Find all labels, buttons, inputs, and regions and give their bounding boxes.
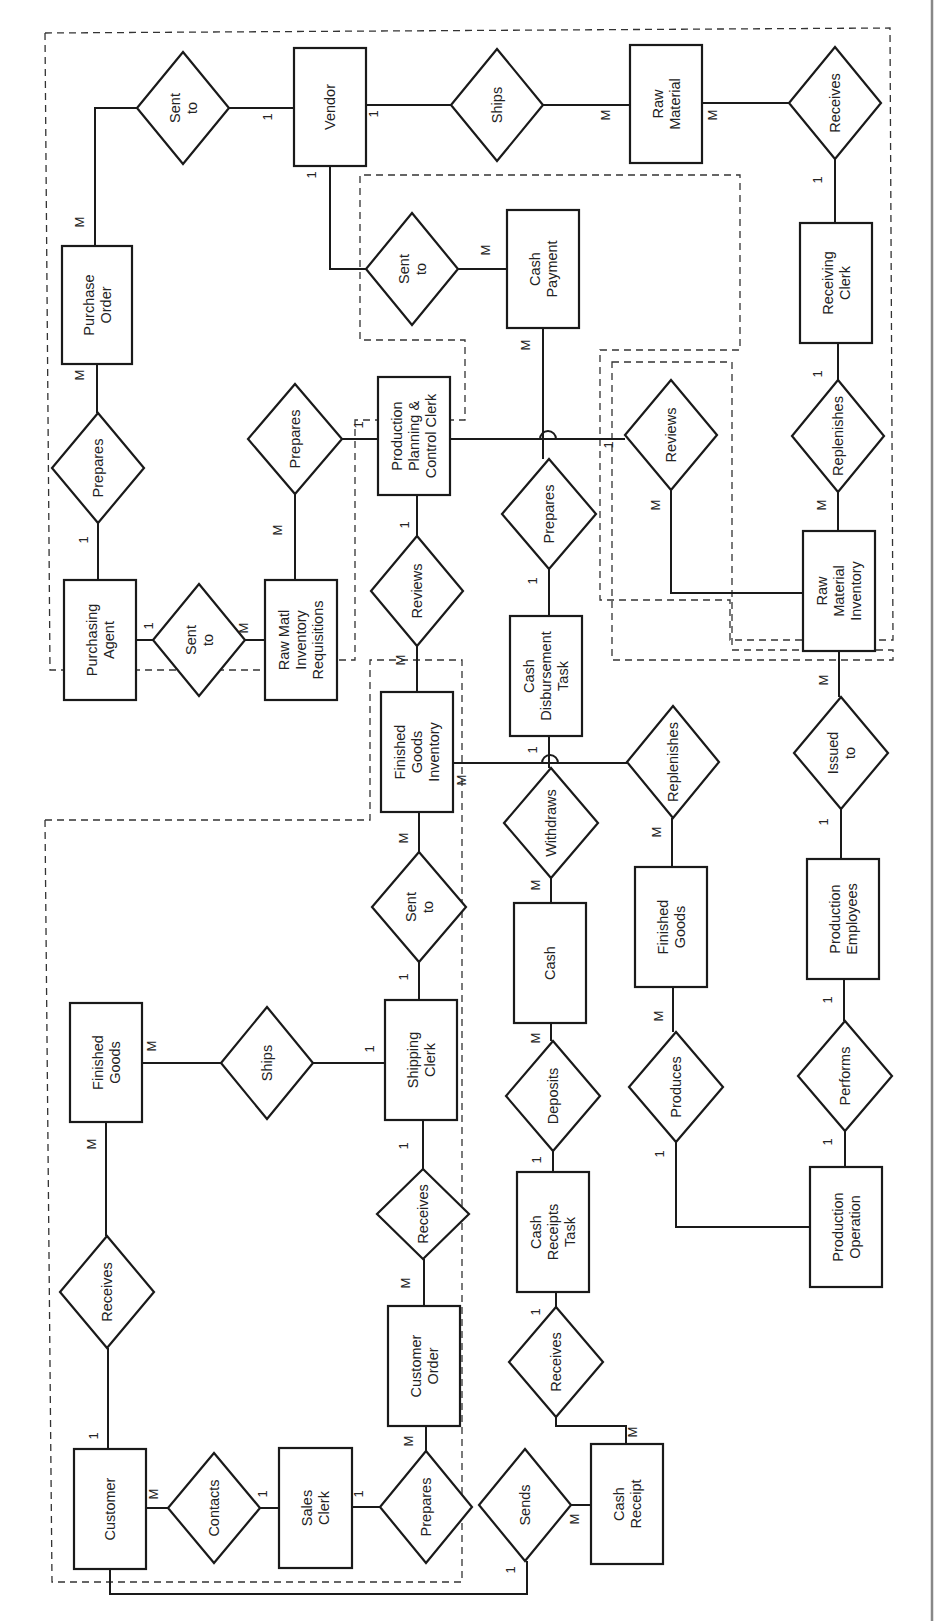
relationship-receives-fg: Receives — [60, 1236, 154, 1348]
cardinality-label: M — [648, 500, 663, 511]
entity-purchasing-agent: PurchasingAgent — [64, 580, 136, 700]
relationship-receives-raw: Receives — [789, 47, 881, 159]
cardinality-label: 1 — [366, 110, 381, 117]
relationship-replenishes-rmi: Replenishes — [792, 380, 884, 492]
entity-cash-payment: CashPayment — [507, 210, 579, 328]
relationship-sends: Sends — [479, 1449, 571, 1561]
cardinality-label: M — [401, 1436, 416, 1447]
cardinality-label: 1 — [76, 536, 91, 543]
cardinality-label: 1 — [820, 996, 835, 1003]
svg-text:ProductionOperation: ProductionOperation — [830, 1192, 863, 1261]
process-boundaries — [45, 28, 893, 1582]
svg-text:Receives: Receives — [415, 1184, 431, 1244]
svg-text:Prepares: Prepares — [90, 439, 106, 498]
cardinality-label: M — [454, 775, 469, 786]
cardinality-label: 1 — [503, 1566, 518, 1573]
relationship-prepares-cdt: Prepares — [502, 459, 596, 569]
relationship-sent-to-vendor: Sentto — [137, 52, 229, 164]
svg-text:Reviews: Reviews — [409, 564, 425, 619]
svg-text:ProductionPlanning &Control Cl: ProductionPlanning &Control Clerk — [389, 393, 439, 478]
cardinality-label: M — [528, 1033, 543, 1044]
cardinality-label: M — [146, 1489, 161, 1500]
cardinality-label: 1 — [362, 1045, 377, 1052]
svg-text:FinishedGoods: FinishedGoods — [90, 1035, 123, 1090]
cardinality-label: M — [528, 880, 543, 891]
cardinality-label: 1 — [529, 1156, 544, 1163]
cardinality-label: M — [651, 1011, 666, 1022]
entity-cash-receipts-task: CashReceiptsTask — [517, 1172, 589, 1292]
cardinality-label: M — [84, 1139, 99, 1150]
entity-raw-matl-inventory-requisitions: Raw MatlInventoryRequisitions — [265, 580, 337, 700]
entity-customer-order: CustomerOrder — [388, 1306, 460, 1426]
cardinality-label: 1 — [351, 421, 366, 428]
entity-vendor: Vendor — [294, 48, 366, 166]
cardinality-label: M — [398, 1278, 413, 1289]
svg-text:SalesClerk: SalesClerk — [299, 1490, 332, 1526]
cardinality-label: 1 — [601, 441, 616, 448]
svg-text:Receives: Receives — [548, 1332, 564, 1392]
cardinality-label: 1 — [260, 113, 275, 120]
entity-customer: Customer — [74, 1449, 146, 1569]
svg-text:Receives: Receives — [99, 1262, 115, 1322]
relationship-performs: Performs — [798, 1021, 892, 1131]
svg-text:Ships: Ships — [259, 1045, 275, 1081]
relationship-ships-fg: Ships — [221, 1007, 313, 1119]
svg-text:Sends: Sends — [517, 1484, 533, 1525]
relationship-reviews-ppc-cp: Reviews — [625, 380, 717, 490]
relationship-sent-to-shipping: Sentto — [372, 852, 466, 962]
entity-raw-material-inventory: RawMaterialInventory — [803, 531, 875, 651]
cardinality-label: M — [72, 370, 87, 381]
connector-line — [556, 1417, 626, 1444]
cardinality-label: 1 — [396, 973, 411, 980]
cardinality-label: 1 — [255, 1490, 270, 1497]
er-diagram: PurchaseOrderVendorRawMaterialCashPaymen… — [0, 0, 945, 1621]
entity-cash-receipt: CashReceipt — [591, 1444, 663, 1564]
svg-text:Reviews: Reviews — [663, 408, 679, 463]
cardinality-label: 1 — [86, 1432, 101, 1439]
cardinality-label: 1 — [304, 171, 319, 178]
connector-line — [671, 490, 803, 593]
svg-text:Ships: Ships — [489, 87, 505, 123]
cardinality-label: M — [816, 675, 831, 686]
entity-shipping-clerk: ShippingClerk — [385, 1000, 457, 1120]
cardinality-label: M — [598, 110, 613, 121]
svg-text:FinishedGoods: FinishedGoods — [655, 900, 688, 955]
svg-text:Receives: Receives — [827, 73, 843, 133]
cardinality-label: 1 — [816, 818, 831, 825]
svg-text:Contacts: Contacts — [206, 1479, 222, 1536]
cardinality-label: 1 — [810, 370, 825, 377]
cardinality-label: M — [72, 217, 87, 228]
relationship-prepares-co: Prepares — [380, 1451, 472, 1563]
relationship-contacts: Contacts — [168, 1453, 260, 1563]
relationship-ships-raw: Ships — [451, 49, 543, 161]
cardinality-label: 1 — [810, 176, 825, 183]
connector-line — [676, 1142, 810, 1227]
relationship-reviews-fgi: Reviews — [371, 536, 463, 646]
cardinality-label: 1 — [397, 521, 412, 528]
entity-raw-material: RawMaterial — [630, 45, 702, 163]
cardinality-label: M — [649, 827, 664, 838]
relationship-lines — [95, 103, 845, 1594]
cardinality-label: 1 — [528, 1308, 543, 1315]
cardinality-label: 1 — [525, 577, 540, 584]
relationship-issued-to: Issuedto — [794, 697, 888, 809]
svg-text:Produces: Produces — [668, 1056, 684, 1117]
entity-finished-goods-left: FinishedGoods — [70, 1003, 142, 1122]
cardinality-label: M — [567, 1514, 582, 1525]
entity-finished-goods-inventory: FinishedGoodsInventory — [381, 692, 453, 812]
svg-text:Withdraws: Withdraws — [543, 789, 559, 857]
relationship-withdraws: Withdraws — [504, 768, 598, 878]
entity-production-employees: ProductionEmployees — [807, 859, 879, 979]
entity-cash-disbursement-task: CashDisbursementTask — [510, 616, 582, 736]
svg-text:Replenishes: Replenishes — [830, 396, 846, 476]
cardinality-label: M — [236, 623, 251, 634]
connector-line-hop — [453, 755, 558, 763]
relationship-prepares-req: Prepares — [248, 384, 342, 494]
relationship-produces: Produces — [629, 1032, 723, 1142]
entity-sales-clerk: SalesClerk — [279, 1448, 352, 1568]
svg-text:Cash: Cash — [542, 946, 558, 980]
entity-receiving-clerk: ReceivingClerk — [800, 223, 872, 343]
cardinality-label: 1 — [141, 622, 156, 629]
cardinality-label: M — [270, 525, 285, 536]
cardinality-label: M — [518, 340, 533, 351]
